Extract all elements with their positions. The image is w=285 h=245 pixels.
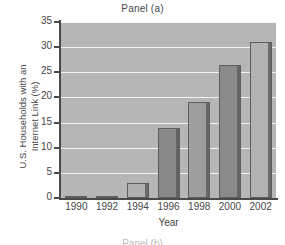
bar-shadow	[268, 42, 272, 198]
x-axis-tick-labels: 1990199219941996199820002002	[61, 201, 276, 217]
bar-1996	[158, 128, 180, 198]
y-axis-tick	[54, 122, 60, 124]
y-axis-tick-label: 20	[0, 90, 52, 101]
x-axis-line	[59, 198, 278, 200]
gridline	[61, 22, 276, 23]
y-axis-tick	[54, 197, 60, 199]
next-panel-caption: Panel (b)	[0, 238, 285, 245]
y-axis-tick-labels: 05101520253035	[0, 0, 52, 245]
x-axis-tick-label: 1998	[182, 201, 216, 212]
y-axis-tick	[54, 46, 60, 48]
y-axis-tick	[54, 96, 60, 98]
y-axis-tick-label: 30	[0, 40, 52, 51]
y-axis-tick-label: 35	[0, 15, 52, 26]
x-axis-label: Year	[61, 217, 276, 228]
y-axis-tick-label: 5	[0, 166, 52, 177]
bar-1994	[127, 183, 149, 198]
x-axis-tick-label: 1990	[59, 201, 93, 212]
y-axis-tick-label: 15	[0, 116, 52, 127]
chart-figure: Panel (a) U.S. Households with an Intern…	[0, 0, 285, 245]
gridline	[61, 123, 276, 124]
y-axis-tick	[54, 71, 60, 73]
gridline	[61, 72, 276, 73]
plot-area	[61, 22, 276, 198]
y-axis-tick	[54, 147, 60, 149]
gridline	[61, 97, 276, 98]
y-axis-tick	[54, 172, 60, 174]
y-axis-tick-label: 25	[0, 65, 52, 76]
bar-1998	[188, 102, 210, 198]
x-axis-tick-label: 1994	[121, 201, 155, 212]
gridline	[61, 47, 276, 48]
y-axis-tick	[54, 21, 60, 23]
y-axis-tick-label: 0	[0, 191, 52, 202]
bar-2000	[219, 65, 241, 198]
bar-2002	[250, 42, 272, 198]
bar-shadow	[237, 65, 241, 198]
x-axis-tick-label: 1996	[152, 201, 186, 212]
x-axis-tick-label: 2002	[244, 201, 278, 212]
y-axis-tick-label: 10	[0, 141, 52, 152]
bar-shadow	[176, 128, 180, 198]
bar-shadow	[145, 183, 149, 198]
bar-shadow	[206, 102, 210, 198]
x-axis-tick-label: 2000	[213, 201, 247, 212]
x-axis-tick-label: 1992	[90, 201, 124, 212]
